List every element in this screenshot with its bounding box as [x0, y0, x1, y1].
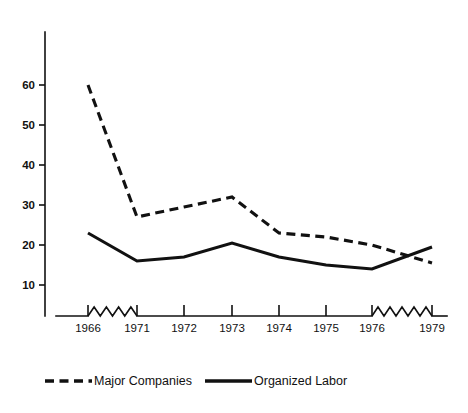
- x-axis: 19661971197219731974197519761979: [56, 305, 447, 334]
- y-tick-label: 50: [22, 119, 35, 131]
- legend-label: Organized Labor: [254, 374, 347, 388]
- x-tick-label: 1971: [124, 322, 150, 334]
- axis-break-zigzag: [88, 307, 137, 316]
- y-tick-label: 40: [22, 159, 35, 171]
- legend-label: Major Companies: [94, 374, 192, 388]
- y-tick-label: 60: [22, 79, 35, 91]
- series-line-2: [88, 233, 432, 269]
- x-tick-label: 1975: [313, 322, 339, 334]
- x-tick-label: 1966: [75, 322, 101, 334]
- y-tick-label: 30: [22, 199, 35, 211]
- axis-break-zigzag: [372, 307, 432, 316]
- x-tick-label: 1976: [359, 322, 385, 334]
- y-tick-label: 10: [22, 279, 35, 291]
- series-line-1: [88, 85, 432, 263]
- y-axis: 102030405060: [22, 32, 45, 316]
- x-tick-label: 1974: [266, 322, 292, 334]
- line-chart: 102030405060 196619711972197319741975197…: [0, 0, 468, 413]
- chart-container: 102030405060 196619711972197319741975197…: [0, 0, 468, 413]
- x-tick-label: 1979: [419, 322, 445, 334]
- x-tick-label: 1972: [171, 322, 197, 334]
- series-group: [88, 85, 432, 269]
- x-tick-label: 1973: [219, 322, 245, 334]
- y-tick-group: 102030405060: [22, 79, 45, 291]
- x-axis-line-group: [56, 307, 447, 316]
- y-tick-label: 20: [22, 239, 35, 251]
- chart-legend: Major CompaniesOrganized Labor: [45, 374, 347, 388]
- x-tick-label-group: 19661971197219731974197519761979: [75, 322, 445, 334]
